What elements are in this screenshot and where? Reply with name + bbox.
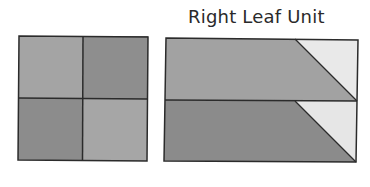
- patch-bottom-right: [83, 99, 147, 161]
- four-patch-block: [18, 36, 148, 161]
- patch-bottom-left: [18, 98, 83, 160]
- four-patch-horizontal-seam: [19, 98, 148, 99]
- quilt-diagram: [0, 0, 370, 187]
- leaf-unit-middle-seam: [165, 100, 357, 101]
- patch-top-right: [83, 36, 148, 99]
- patch-top-left: [19, 36, 83, 98]
- right-leaf-unit: [164, 38, 358, 162]
